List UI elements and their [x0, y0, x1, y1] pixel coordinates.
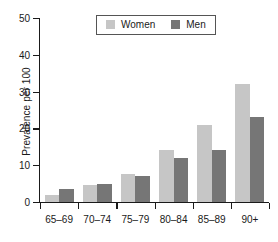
x-tick-mark: [155, 203, 156, 209]
legend-entry-men: Men: [171, 19, 205, 30]
x-tick-mark: [40, 203, 41, 209]
bar-men-90+: [250, 117, 265, 202]
x-tick-mark: [193, 203, 194, 209]
bar-men-75-79: [135, 176, 150, 202]
legend-swatch-icon: [171, 20, 180, 29]
y-tick-mark: [33, 202, 39, 203]
legend-entry-women: Women: [106, 19, 155, 30]
bar-men-70-74: [97, 184, 112, 202]
x-tick-mark: [231, 203, 232, 209]
y-tick-label: 10: [0, 160, 30, 171]
bar-chart: Prevalence per 100 01020304050 65–6970–7…: [0, 0, 278, 242]
x-tick-mark: [116, 203, 117, 209]
bar-women-65-69: [45, 195, 60, 202]
y-tick-label: 0: [0, 197, 30, 208]
y-tick-label: 20: [0, 123, 30, 134]
bar-women-90+: [235, 84, 250, 202]
x-tick-label: 90+: [224, 214, 276, 225]
bars-layer: [40, 18, 269, 202]
y-tick-label: 40: [0, 49, 30, 60]
x-tick-mark: [269, 203, 270, 209]
bar-men-65-69: [59, 189, 74, 202]
bar-women-85-89: [197, 125, 212, 202]
y-tick-mark: [33, 128, 39, 129]
y-tick-mark: [33, 55, 39, 56]
bar-women-70-74: [83, 185, 98, 202]
legend-label: Women: [121, 19, 155, 30]
y-tick-mark: [33, 92, 39, 93]
chart-legend: WomenMen: [96, 15, 216, 35]
bar-women-80-84: [159, 150, 174, 202]
y-tick-label: 50: [0, 13, 30, 24]
legend-label: Men: [186, 19, 205, 30]
legend-swatch-icon: [106, 20, 115, 29]
y-tick-label: 30: [0, 86, 30, 97]
x-tick-mark: [78, 203, 79, 209]
bar-men-85-89: [212, 150, 227, 202]
y-tick-mark: [33, 18, 39, 19]
bar-women-75-79: [121, 174, 136, 202]
y-tick-mark: [33, 165, 39, 166]
bar-men-80-84: [174, 158, 189, 202]
